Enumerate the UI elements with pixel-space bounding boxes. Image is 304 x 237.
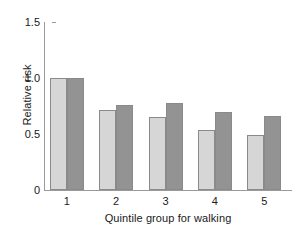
plot-area	[45, 22, 292, 190]
bar-light-series-4	[198, 130, 215, 190]
x-tick-label-3: 3	[151, 195, 181, 207]
x-axis-line	[44, 190, 292, 191]
y-tick-label-1-0: 1.0	[14, 73, 40, 84]
x-tick-label-5: 5	[249, 195, 279, 207]
x-axis-title: Quintile group for walking	[44, 212, 292, 224]
bar-dark-series-5	[264, 116, 281, 190]
bar-dark-series-2	[116, 105, 133, 190]
bar-light-series-3	[149, 117, 166, 190]
x-tick-label-4: 4	[200, 195, 230, 207]
bar-dark-series-3	[166, 103, 183, 190]
bar-chart: Relative risk 1.5 1.0 0.5 0 12345 Quinti…	[0, 0, 304, 237]
y-tick-label-1-5: 1.5	[14, 17, 40, 28]
bar-light-series-5	[247, 135, 264, 190]
y-axis-ticks: 1.5 1.0 0.5 0	[12, 0, 40, 237]
bar-light-series-2	[99, 110, 116, 190]
x-tick-label-2: 2	[101, 195, 131, 207]
bar-dark-series-1	[67, 78, 84, 190]
bar-light-series-1	[50, 78, 67, 190]
x-tick-label-1: 1	[52, 195, 82, 207]
bar-dark-series-4	[215, 112, 232, 190]
y-tick-label-0-5: 0.5	[14, 129, 40, 140]
y-tick-label-0: 0	[14, 185, 40, 196]
